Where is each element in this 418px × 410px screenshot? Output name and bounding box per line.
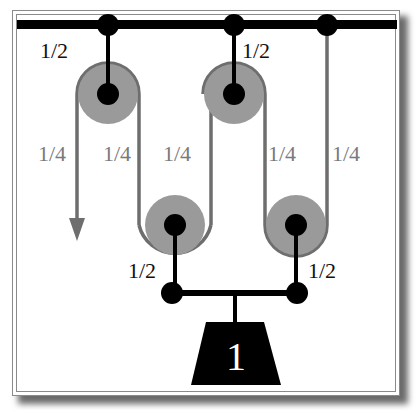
crossbar-joint-right <box>286 282 308 304</box>
axle-fixed-pulley-left <box>97 83 119 105</box>
label-rope-1: 1/4 <box>38 141 66 166</box>
label-bottom-left-rod: 1/2 <box>128 258 156 283</box>
axle-fixed-pulley-middle <box>223 83 245 105</box>
pulley-diagram: 1/2 1/2 1/4 1/4 1/4 1/4 1/4 1/2 1/2 1 <box>0 0 418 410</box>
label-rope-5: 1/4 <box>332 141 360 166</box>
label-rope-4: 1/4 <box>268 141 296 166</box>
pull-arrow-icon <box>69 218 85 241</box>
axle-movable-pulley-right <box>285 214 307 236</box>
label-weight: 1 <box>226 334 246 379</box>
label-top-middle-rod: 1/2 <box>242 38 270 63</box>
crossbar-joint-left <box>161 282 183 304</box>
label-top-left-rod: 1/2 <box>40 38 68 63</box>
ceiling-anchor-middle <box>223 14 245 36</box>
diagram-stage: 1/2 1/2 1/4 1/4 1/4 1/4 1/4 1/2 1/2 1 <box>0 0 418 410</box>
label-rope-2: 1/4 <box>103 141 131 166</box>
ceiling-anchor-right <box>316 14 338 36</box>
label-bottom-right-rod: 1/2 <box>308 258 336 283</box>
label-rope-3: 1/4 <box>163 141 191 166</box>
ceiling-bar <box>17 20 397 29</box>
ceiling-anchor-left <box>97 14 119 36</box>
axle-movable-pulley-left <box>164 214 186 236</box>
